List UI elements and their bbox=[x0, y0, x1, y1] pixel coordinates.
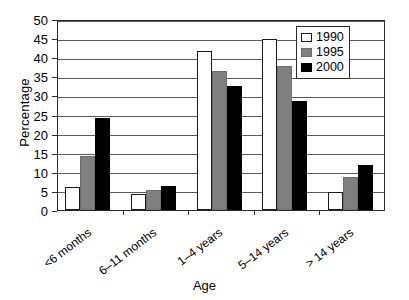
bar-2000-5 bbox=[358, 165, 373, 210]
legend-swatch-1995 bbox=[301, 48, 312, 57]
bar-1995-1 bbox=[80, 156, 95, 210]
y-axis-tick-label: 25 bbox=[0, 110, 48, 123]
bar-1990-1 bbox=[65, 187, 80, 210]
bar-1995-2 bbox=[146, 190, 161, 210]
x-axis-title: Age bbox=[0, 278, 409, 293]
y-axis-tick-label: 50 bbox=[0, 14, 48, 27]
y-axis-tick-label: 0 bbox=[0, 205, 48, 218]
bar-1990-3 bbox=[197, 51, 212, 210]
y-axis-tick-label: 10 bbox=[0, 167, 48, 180]
x-axis-tick-mark bbox=[123, 211, 124, 215]
legend-label-1995: 1995 bbox=[316, 46, 344, 59]
bar-2000-1 bbox=[95, 118, 110, 210]
y-axis-tick-label: 15 bbox=[0, 148, 48, 161]
bar-1995-5 bbox=[343, 177, 358, 210]
legend-swatch-1990 bbox=[301, 33, 312, 42]
x-axis-tick-mark bbox=[319, 211, 320, 215]
bar-group bbox=[131, 21, 176, 210]
y-axis-tick-label: 35 bbox=[0, 71, 48, 84]
legend-item-2000: 2000 bbox=[301, 60, 344, 75]
x-axis-tick-mark bbox=[254, 211, 255, 215]
y-axis-tick-label: 30 bbox=[0, 90, 48, 103]
bar-chart-figure: Percentage 05101520253035404550 <6 month… bbox=[0, 0, 409, 300]
x-axis-tick-mark bbox=[188, 211, 189, 215]
legend-label-1990: 1990 bbox=[316, 31, 344, 44]
legend-item-1990: 1990 bbox=[301, 30, 344, 45]
bar-2000-3 bbox=[227, 86, 242, 210]
bar-2000-4 bbox=[292, 101, 307, 210]
bar-1990-5 bbox=[328, 192, 343, 210]
y-axis-tick-mark bbox=[52, 211, 57, 212]
y-axis-tick-label: 40 bbox=[0, 52, 48, 65]
legend-item-1995: 1995 bbox=[301, 45, 344, 60]
bar-1995-3 bbox=[212, 71, 227, 210]
y-axis-tick-label: 5 bbox=[0, 186, 48, 199]
y-axis-tick-label: 20 bbox=[0, 129, 48, 142]
legend-swatch-2000 bbox=[301, 63, 312, 72]
bar-1990-2 bbox=[131, 194, 146, 210]
y-axis-tick-label: 45 bbox=[0, 33, 48, 46]
bar-group bbox=[65, 21, 110, 210]
bar-group bbox=[197, 21, 242, 210]
bar-1990-4 bbox=[262, 39, 277, 210]
bar-2000-2 bbox=[161, 186, 176, 210]
bar-1995-4 bbox=[277, 66, 292, 210]
legend-label-2000: 2000 bbox=[316, 61, 344, 74]
legend: 199019952000 bbox=[296, 26, 350, 79]
